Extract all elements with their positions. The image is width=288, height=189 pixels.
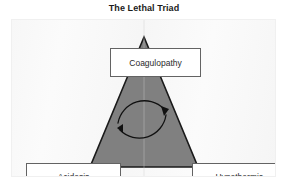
node-box-hypothermia[interactable]: Hypothermia [192, 163, 276, 177]
diagram-canvas: Coagulopathy Acidosis Hypothermia [11, 19, 276, 177]
figure-title: The Lethal Triad [0, 3, 288, 13]
figure-container: The Lethal Triad Coagulopathy [0, 0, 288, 189]
node-box-acidosis[interactable]: Acidosis [26, 163, 121, 177]
node-label-hypothermia: Hypothermia [215, 172, 263, 178]
triad-diagram-svg [12, 20, 275, 176]
node-label-coagulopathy: Coagulopathy [129, 58, 181, 68]
node-box-coagulopathy[interactable]: Coagulopathy [110, 48, 201, 77]
node-label-acidosis: Acidosis [58, 172, 90, 178]
